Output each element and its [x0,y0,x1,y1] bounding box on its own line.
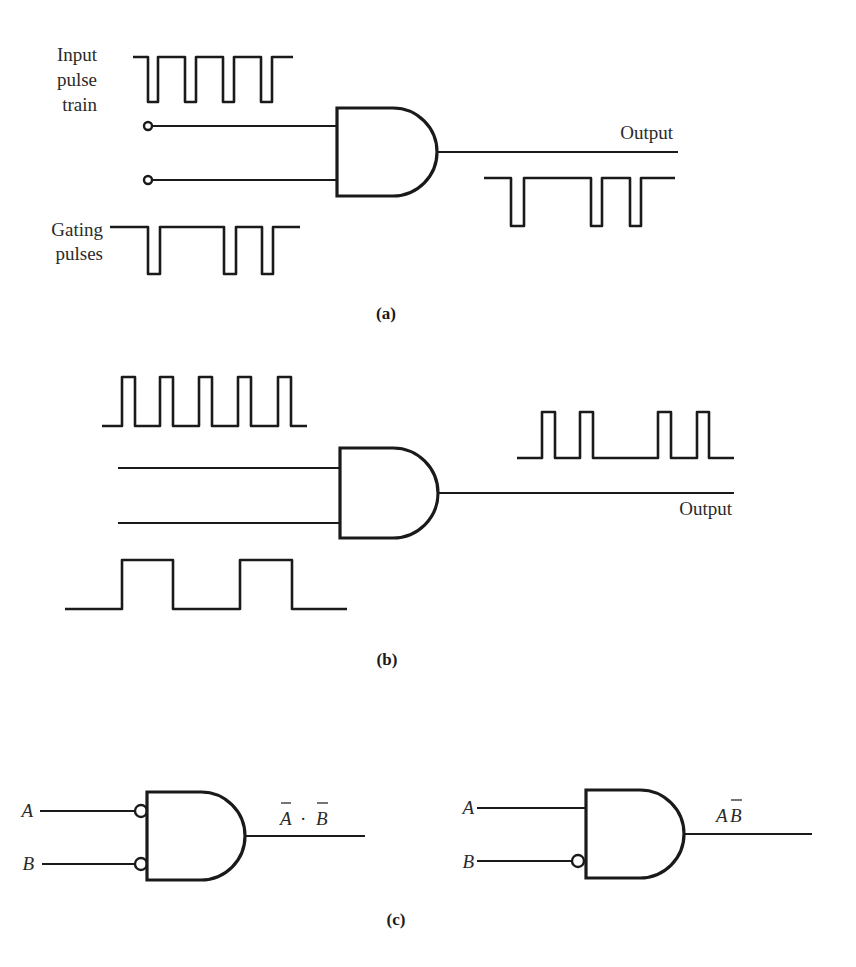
inverter-bubble-a-icon [135,805,147,817]
expr-dot: · [300,808,306,829]
input-terminal-1 [144,122,152,130]
input-b-label: B [22,853,34,874]
and-gate-icon [586,790,684,878]
panel-b: Output (b) [65,377,734,669]
panel-c-right-gate: A B A B [460,790,812,878]
and-gate-diagram: Input pulse train Output Gating pulses (… [0,0,856,967]
panel-a: Input pulse train Output Gating pulses (… [51,44,678,323]
expr-a: A [714,805,728,826]
output-waveform [517,412,734,458]
output-expression: A · B [278,803,328,829]
input-a-label: A [19,800,33,821]
output-expression: A B [714,800,742,826]
gating-pulses-waveform [65,560,347,609]
gating-pulses-waveform [110,227,300,274]
caption-a: (a) [376,304,396,323]
output-waveform [484,178,675,226]
input-a-label: A [460,797,474,818]
and-gate-icon [340,448,438,538]
caption-b: (b) [377,650,398,669]
caption-c: (c) [387,910,406,929]
gating-label-line-2: pulses [56,243,104,264]
output-label: Output [620,122,674,143]
inverter-bubble-b-icon [572,855,584,867]
input-label-line-2: pulse [57,69,97,90]
input-label-line-3: train [62,94,97,115]
and-gate-icon [147,792,245,880]
input-label-line-1: Input [57,44,98,65]
and-gate-icon [337,108,437,196]
gating-label-line-1: Gating [51,219,103,240]
input-pulse-train-waveform [133,57,293,102]
expr-a: A [278,808,292,829]
input-terminal-2 [144,176,152,184]
expr-b: B [316,808,328,829]
output-label: Output [679,498,733,519]
inverter-bubble-b-icon [135,858,147,870]
panel-c-left-gate: A B A · B [19,792,365,880]
expr-b: B [730,805,742,826]
input-b-label: B [462,851,474,872]
input-pulse-train-waveform [102,377,307,426]
